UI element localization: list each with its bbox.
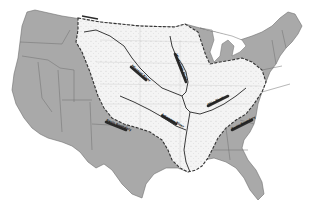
mississippi-basin-map: Missouri River Mississippi River Ohio Ri… — [0, 0, 323, 207]
label-northern-boundary — [82, 16, 98, 19]
